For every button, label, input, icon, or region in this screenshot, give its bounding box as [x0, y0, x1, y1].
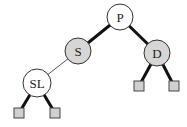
leaf-square — [169, 81, 179, 91]
tree-diagram: P S D SL — [0, 0, 187, 127]
node-label-p: P — [116, 10, 123, 25]
leaf-square — [134, 81, 144, 91]
node-sl: SL — [23, 69, 51, 97]
node-label-sl: SL — [29, 76, 44, 91]
node-d: D — [144, 40, 170, 66]
edges — [19, 17, 174, 113]
leaf-square — [14, 108, 24, 118]
leaf-square — [50, 108, 60, 118]
node-p: P — [107, 4, 133, 30]
node-label-d: D — [152, 46, 161, 61]
node-label-s: S — [74, 44, 81, 59]
node-s: S — [65, 38, 91, 64]
